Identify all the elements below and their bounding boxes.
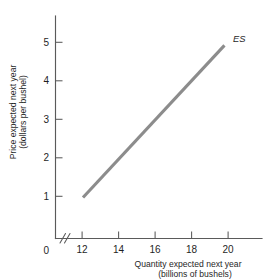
y-axis-title: Price expected next year	[8, 65, 18, 160]
x-tick-label-12: 12	[77, 244, 89, 255]
x-axis-ticks	[82, 232, 228, 239]
x-tick-label-14: 14	[113, 244, 125, 255]
chart-canvas: 1 2 3 4 5 0 12 14 16 18 20 ES Quantity e…	[0, 0, 278, 280]
y-tick-label-3: 3	[43, 114, 49, 125]
y-axis-title-line2: (dollars per bushel)	[18, 75, 28, 149]
series-label-es: ES	[233, 33, 246, 44]
origin-label: 0	[43, 245, 49, 256]
x-axis-title-line2: (billions of bushels)	[158, 269, 232, 279]
series-line-es	[83, 45, 224, 197]
y-tick-label-2: 2	[43, 152, 49, 163]
x-tick-label-18: 18	[186, 244, 198, 255]
y-tick-label-5: 5	[43, 37, 49, 48]
y-tick-label-1: 1	[43, 191, 49, 202]
x-axis-title: Quantity expected next year	[134, 259, 241, 269]
x-tick-label-20: 20	[223, 244, 235, 255]
supply-curve-chart: 1 2 3 4 5 0 12 14 16 18 20 ES Quantity e…	[0, 0, 278, 280]
y-axis-ticks	[56, 42, 63, 196]
y-tick-label-4: 4	[43, 75, 49, 86]
x-tick-label-16: 16	[150, 244, 162, 255]
